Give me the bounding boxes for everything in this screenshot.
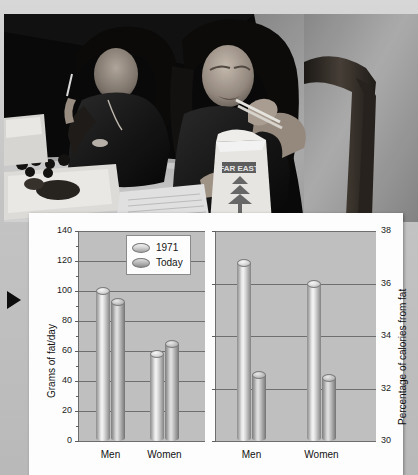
bar-top-ellipse (252, 371, 266, 379)
axis-minor-tick (76, 336, 79, 337)
category-label-women: Women (292, 449, 352, 460)
axis-tick (75, 411, 79, 412)
axis-minor-tick (76, 366, 79, 367)
axis-minor-tick (76, 276, 79, 277)
bar-top-ellipse (165, 340, 179, 348)
y-axis-tick-label: 20 (37, 406, 72, 415)
legend-swatch-today-icon (132, 258, 150, 268)
bar-grams-of-fat-per-day-women-1971 (150, 354, 164, 441)
axis-tick (75, 321, 79, 322)
y-axis-tick-label: 30 (381, 436, 405, 445)
photograph: FAR EAST (4, 14, 418, 222)
axis-tick (75, 291, 79, 292)
axis-tick (212, 336, 216, 337)
y-axis-tick-label: 100 (37, 286, 72, 295)
bar-grams-of-fat-per-day-men-1971 (96, 291, 110, 441)
figure-pointer-triangle (7, 291, 21, 309)
y-axis-title-left: Grams of fat/day (46, 324, 57, 398)
bar-top-ellipse (307, 280, 321, 288)
category-label-women: Women (135, 449, 195, 460)
bar-percentage-of-calories-from-fat-men-1971 (237, 263, 251, 442)
axis-tick (212, 441, 216, 442)
category-label-men: Men (222, 449, 282, 460)
bar-top-ellipse (111, 298, 125, 306)
category-label-men: Men (81, 449, 141, 460)
axis-tick (75, 381, 79, 382)
chart-panel: 020406080100120140 Grams of fat/day 3032… (29, 213, 403, 475)
charts-container: 020406080100120140 Grams of fat/day 3032… (29, 213, 403, 475)
bar-top-ellipse (237, 259, 251, 267)
gridline (216, 231, 376, 232)
y-axis-tick-label: 38 (381, 226, 405, 235)
axis-minor-tick (76, 306, 79, 307)
legend-item-1971: 1971 (132, 240, 183, 255)
bar-percentage-of-calories-from-fat-women-today (322, 378, 336, 441)
bar-top-ellipse (322, 374, 336, 382)
axis-tick (75, 441, 79, 442)
axis-minor-tick (76, 426, 79, 427)
gridline (79, 231, 205, 232)
bar-grams-of-fat-per-day-men-today (111, 302, 125, 442)
legend-label-today: Today (156, 258, 183, 268)
chart-legend: 1971 Today (126, 235, 191, 275)
y-axis-tick-label: 140 (37, 226, 72, 235)
axis-minor-tick (76, 246, 79, 247)
bar-top-ellipse (150, 350, 164, 358)
axis-tick (212, 231, 216, 232)
legend-item-today: Today (132, 255, 183, 270)
axis-tick (75, 261, 79, 262)
bar-percentage-of-calories-from-fat-men-today (252, 375, 266, 441)
photograph-image: FAR EAST (4, 14, 418, 222)
axis-tick (75, 351, 79, 352)
y-axis-tick-label: 36 (381, 279, 405, 288)
bar-percentage-of-calories-from-fat-women-1971 (307, 284, 321, 442)
legend-swatch-1971-icon (132, 243, 150, 253)
axis-minor-tick (76, 396, 79, 397)
legend-label-1971: 1971 (156, 243, 178, 253)
axis-tick (212, 389, 216, 390)
axis-tick (75, 231, 79, 232)
y-axis-tick-label: 120 (37, 256, 72, 265)
axis-tick (212, 284, 216, 285)
y-axis-title-right: Percentage of calories from fat (397, 289, 408, 425)
y-axis-tick-label: 0 (37, 436, 72, 445)
bar-grams-of-fat-per-day-women-today (165, 344, 179, 442)
bar-top-ellipse (96, 287, 110, 295)
